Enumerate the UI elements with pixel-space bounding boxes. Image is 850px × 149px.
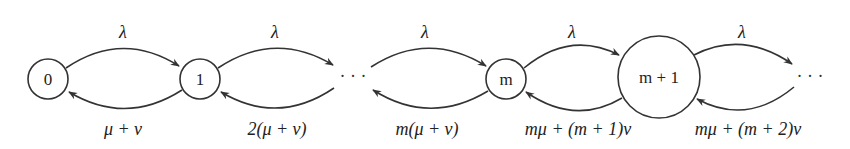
arc-m-to-dots: [373, 90, 488, 108]
node-0: 0: [28, 59, 68, 99]
rate-label-lambda-3: λ: [567, 22, 576, 42]
rate-label-back-0: μ + ν: [103, 119, 142, 139]
arc-m-to-m1: [524, 45, 619, 68]
rate-label-back-4: mμ + (m + 2)ν: [695, 119, 801, 140]
rate-label-lambda-2: λ: [420, 22, 429, 42]
arc-dots-to-m1: [697, 87, 794, 110]
rate-label-lambda-1: λ: [270, 22, 279, 42]
ellipsis-2: · · ·: [797, 66, 824, 86]
state-transition-diagram: 0 1 · · · m m + 1 · · · λ λ λ λ λ μ + ν …: [0, 0, 850, 149]
arc-0-to-1: [66, 48, 179, 68]
node-1-label: 1: [196, 70, 205, 89]
arc-m1-to-dots: [694, 44, 792, 64]
node-m-plus-1: m + 1: [618, 36, 700, 118]
rate-label-back-2: m(μ + ν): [395, 119, 458, 140]
arc-1-to-0: [69, 90, 182, 109]
rate-label-back-1: 2(μ + ν): [247, 119, 306, 140]
node-m: m: [486, 59, 526, 99]
node-m-label: m: [499, 70, 512, 89]
arc-dots-to-1: [221, 88, 334, 108]
node-0-label: 0: [44, 70, 53, 89]
arc-1-to-dots: [218, 48, 333, 68]
arc-m1-to-m: [526, 92, 622, 111]
node-m-plus-1-label: m + 1: [639, 68, 679, 87]
ellipsis-1: · · ·: [340, 66, 367, 86]
rate-label-lambda-0: λ: [118, 22, 127, 42]
rate-label-back-3: mμ + (m + 1)ν: [525, 119, 631, 140]
arc-dots-to-m: [371, 48, 486, 67]
node-1: 1: [180, 59, 220, 99]
rate-label-lambda-4: λ: [737, 22, 746, 42]
